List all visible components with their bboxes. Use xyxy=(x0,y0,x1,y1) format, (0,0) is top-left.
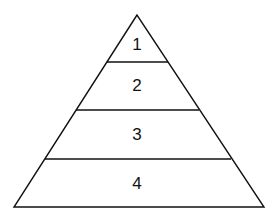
level-2-label: 2 xyxy=(132,76,141,95)
level-1-label: 1 xyxy=(132,35,141,54)
level-3-label: 3 xyxy=(132,125,141,144)
level-4-label: 4 xyxy=(132,174,141,193)
pyramid-diagram: 1 2 3 4 xyxy=(0,0,278,217)
